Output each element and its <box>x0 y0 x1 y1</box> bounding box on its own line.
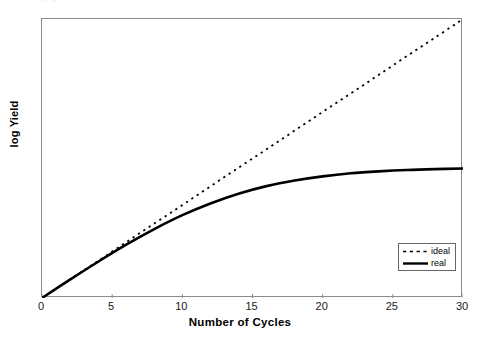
series-line-real <box>42 169 463 298</box>
y-axis-title: log Yield <box>8 64 20 184</box>
cropped-header-artifact: · · <box>44 0 244 4</box>
x-tick-label-20: 20 <box>302 300 342 313</box>
dashed-line-icon <box>402 247 429 256</box>
x-tick-label-0: 0 <box>21 300 61 313</box>
chart-figure: · · log Yield 051015202530 Number of Cyc… <box>0 0 480 342</box>
x-tick-label-15: 15 <box>232 300 272 313</box>
x-axis-title: Number of Cycles <box>0 316 480 328</box>
legend-entry-ideal: ideal <box>402 246 452 257</box>
x-tick-label-25: 25 <box>372 300 412 313</box>
x-tick-label-5: 5 <box>91 300 131 313</box>
solid-line-icon <box>402 259 429 268</box>
legend-label-real: real <box>429 259 446 268</box>
x-tick-label-30: 30 <box>442 300 480 313</box>
legend-entry-real: real <box>402 258 452 269</box>
legend-label-ideal: ideal <box>429 247 450 256</box>
x-tick-label-10: 10 <box>161 300 201 313</box>
chart-legend: ideal real <box>398 243 456 271</box>
